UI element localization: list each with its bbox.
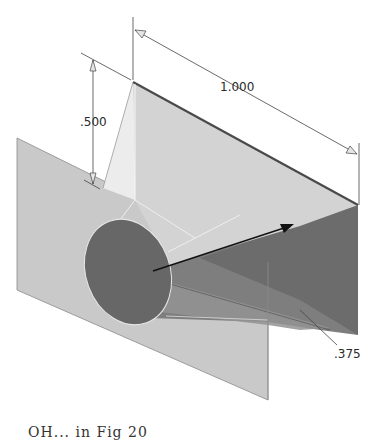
figure-caption: OH... in Fig 20: [28, 424, 148, 440]
dim-arrow-icon: [346, 146, 357, 154]
dim-label-diameter: .375: [334, 347, 361, 361]
dim-arrow-icon: [135, 30, 146, 38]
dim-arrow-icon: [90, 60, 96, 71]
dim-extension-line: [81, 53, 131, 80]
wedge-light-face: [103, 82, 135, 200]
dim-label-height: .500: [80, 115, 107, 129]
dim-label-length: 1.000: [220, 80, 254, 94]
